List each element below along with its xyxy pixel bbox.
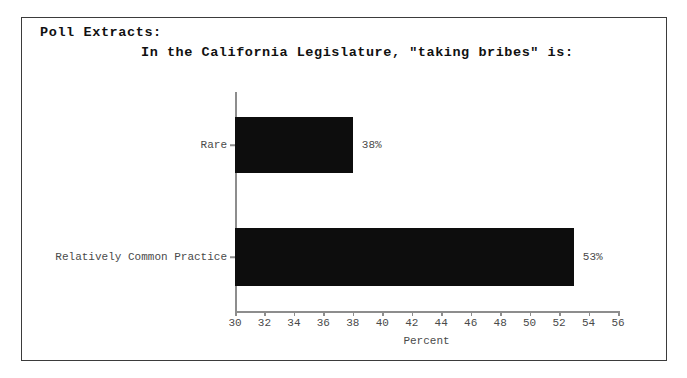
- x-axis-tick-label: 44: [435, 317, 448, 329]
- x-axis-tick: [235, 311, 237, 316]
- x-axis-tick-label: 40: [376, 317, 389, 329]
- bar: [235, 117, 353, 173]
- x-axis-tick-label: 46: [464, 317, 477, 329]
- y-axis-tick: [230, 256, 235, 258]
- bar-value-label: 38%: [362, 139, 382, 151]
- x-axis-tick: [589, 311, 591, 316]
- x-axis-tick: [530, 311, 532, 316]
- x-axis-tick: [412, 311, 414, 316]
- x-axis-tick: [353, 311, 355, 316]
- x-axis-tick-label: 34: [287, 317, 300, 329]
- x-axis-tick-label: 36: [317, 317, 330, 329]
- y-axis-tick: [230, 144, 235, 146]
- x-axis-tick: [559, 311, 561, 316]
- x-axis-tick-label: 30: [228, 317, 241, 329]
- x-axis-tick: [441, 311, 443, 316]
- bar-value-label: 53%: [583, 251, 603, 263]
- x-axis-tick-label: 54: [582, 317, 595, 329]
- x-axis-tick: [264, 311, 266, 316]
- x-axis-tick: [500, 311, 502, 316]
- x-axis-tick-label: 32: [258, 317, 271, 329]
- plot-area: Rare38%Relatively Common Practice53% 303…: [22, 18, 666, 360]
- x-axis-tick: [618, 311, 620, 316]
- x-axis-tick-label: 50: [523, 317, 536, 329]
- x-axis-tick: [471, 311, 473, 316]
- x-axis-tick-label: 38: [346, 317, 359, 329]
- poll-extract-figure: Poll Extracts: In the California Legisla…: [21, 17, 667, 361]
- bar-category-label: Rare: [201, 139, 227, 151]
- x-axis-tick: [323, 311, 325, 316]
- x-axis-tick: [382, 311, 384, 316]
- x-axis-tick: [294, 311, 296, 316]
- x-axis-tick-label: 42: [405, 317, 418, 329]
- x-axis-tick-label: 52: [552, 317, 565, 329]
- bar-category-label: Relatively Common Practice: [55, 251, 227, 263]
- x-axis-title: Percent: [235, 335, 618, 347]
- x-axis-tick-label: 48: [494, 317, 507, 329]
- x-axis-tick-label: 56: [611, 317, 624, 329]
- bar: [235, 228, 574, 286]
